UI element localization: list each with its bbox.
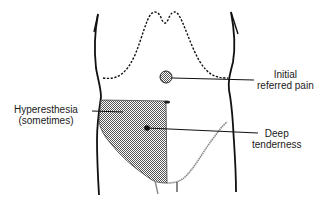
left-groin-tick bbox=[155, 181, 158, 194]
hyperesthesia-label-line1: Hyperesthesia bbox=[14, 104, 78, 115]
hyperesthesia-region bbox=[99, 100, 167, 183]
left-torso-outline bbox=[95, 14, 101, 195]
deep-tenderness-label-line1: Deep bbox=[252, 128, 301, 139]
deep-tenderness-label: Deep tenderness bbox=[252, 128, 301, 150]
umbilicus bbox=[164, 100, 170, 103]
initial-referred-pain-label-line1: Initial bbox=[257, 69, 314, 80]
right-torso-outline bbox=[229, 12, 236, 192]
hyperesthesia-label: Hyperesthesia (sometimes) bbox=[14, 104, 78, 126]
deep-tenderness-label-line2: tenderness bbox=[252, 139, 301, 150]
initial-referred-pain-label: Initial referred pain bbox=[257, 69, 314, 91]
initial-referred-pain-dot bbox=[160, 71, 172, 83]
abdomen-diagram bbox=[0, 0, 320, 206]
initial-referred-pain-label-line2: referred pain bbox=[257, 80, 314, 91]
rib-cage-outline bbox=[103, 12, 228, 78]
initial-referred-pain-leader bbox=[172, 78, 254, 80]
hyperesthesia-label-line2: (sometimes) bbox=[14, 115, 78, 126]
